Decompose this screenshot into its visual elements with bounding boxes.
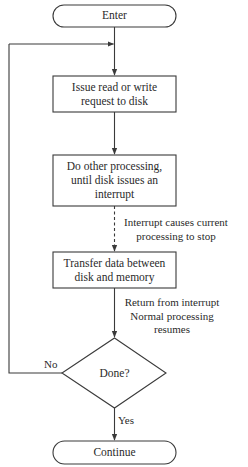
transfer-label-line-2: disk and memory: [53, 270, 176, 284]
return-label-line-2: Normal processing: [122, 310, 222, 324]
done-decision-label: Done?: [64, 366, 165, 380]
other-label-line-1: Do other processing,: [53, 159, 176, 173]
yes-edge-label: Yes: [118, 414, 134, 428]
interrupt-edge-label: Interrupt causes current processing to s…: [120, 216, 232, 243]
other-label-line-2: until disk issues an: [53, 173, 176, 187]
enter-label: Enter: [102, 9, 127, 21]
transfer-data-label: Transfer data between disk and memory: [53, 256, 176, 284]
continue-terminal-label: Continue: [53, 445, 176, 459]
enter-terminal-label: Enter: [53, 8, 176, 22]
transfer-label-line-1: Transfer data between: [53, 256, 176, 270]
continue-label: Continue: [93, 446, 135, 458]
issue-label-line-1: Issue read or write: [53, 80, 176, 94]
no-edge-label: No: [44, 358, 57, 372]
interrupt-label-line-1: Interrupt causes current: [120, 216, 232, 230]
issue-request-label: Issue read or write request to disk: [53, 80, 176, 108]
other-processing-label: Do other processing, until disk issues a…: [53, 159, 176, 201]
no-label: No: [44, 358, 57, 370]
return-label-line-3: resumes: [122, 323, 222, 337]
done-label: Done?: [99, 367, 129, 379]
other-label-line-3: interrupt: [53, 187, 176, 201]
issue-label-line-2: request to disk: [53, 94, 176, 108]
return-label-line-1: Return from interrupt: [122, 296, 222, 310]
return-edge-label: Return from interrupt Normal processing …: [122, 296, 222, 337]
yes-label: Yes: [118, 414, 134, 426]
interrupt-label-line-2: processing to stop: [120, 230, 232, 244]
